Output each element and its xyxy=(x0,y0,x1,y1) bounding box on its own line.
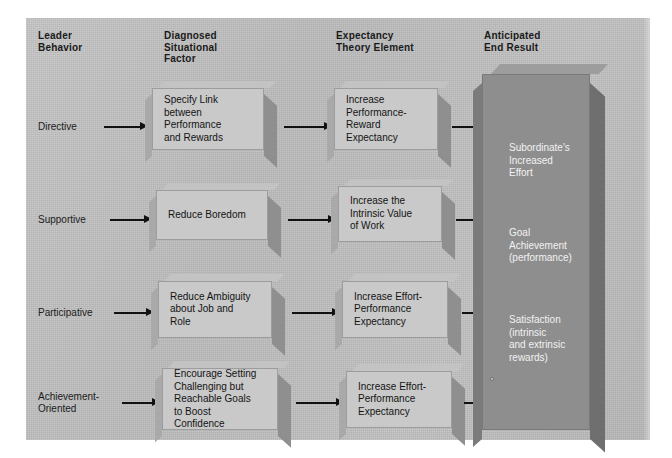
arrow-factor-to-expectancy-1 xyxy=(284,122,332,131)
arrow-factor-to-expectancy-4 xyxy=(296,398,344,407)
box-label: Reduce Boredom xyxy=(168,209,260,222)
box-reduce-ambiguity: Reduce Ambiguity about Job and Role xyxy=(158,281,272,338)
box-increase-intrinsic-value: Increase the Intrinsic Value of Work xyxy=(338,186,442,242)
end-result-item-goal-achievement: Goal Achievement (performance) xyxy=(509,227,572,265)
box-specify-link: Specify Link between Performance and Rew… xyxy=(152,88,264,150)
box-label: Increase Effort- Performance Expectancy xyxy=(354,291,440,329)
arrow-factor-to-expectancy-2 xyxy=(288,215,336,224)
column-header-leader-behavior: Leader Behavior xyxy=(38,30,82,53)
box-label: Encourage Setting Challenging but Reacha… xyxy=(174,368,270,431)
column-header-expectancy-theory-element: Expectancy Theory Element xyxy=(336,30,414,53)
arrow-directive-to-factor xyxy=(104,122,148,131)
panel-anticipated-end-result: Subordinate's Increased Effort Goal Achi… xyxy=(482,74,590,430)
box-label: Increase Effort- Performance Expectancy xyxy=(358,381,444,419)
column-header-anticipated-end-result: Anticipated End Result xyxy=(484,30,541,53)
box-increase-effort-performance-expectancy-1: Increase Effort- Performance Expectancy xyxy=(342,281,448,338)
arrow-supportive-to-factor xyxy=(110,215,152,224)
box-increase-effort-performance-expectancy-2: Increase Effort- Performance Expectancy xyxy=(346,371,452,428)
box-encourage-setting-challenging-goals: Encourage Setting Challenging but Reacha… xyxy=(162,368,278,430)
row-label-achievement-oriented: Achievement- Oriented xyxy=(38,391,99,414)
box-label: Specify Link between Performance and Rew… xyxy=(164,94,256,144)
box-increase-performance-reward-expectancy: Increase Performance- Reward Expectancy xyxy=(334,88,438,150)
end-result-item-subordinates-increased-effort: Subordinate's Increased Effort xyxy=(509,142,570,180)
arrow-participative-to-factor xyxy=(114,308,154,317)
box-label: Reduce Ambiguity about Job and Role xyxy=(170,291,264,329)
box-label: Increase Performance- Reward Expectancy xyxy=(346,94,430,144)
row-label-participative: Participative xyxy=(38,307,92,319)
end-result-item-satisfaction: Satisfaction (intrinsic and extrinsic re… xyxy=(509,314,565,364)
row-label-directive: Directive xyxy=(38,121,77,133)
column-header-diagnosed-situational-factor: Diagnosed Situational Factor xyxy=(164,30,217,65)
row-label-supportive: Supportive xyxy=(38,214,86,226)
arrow-factor-to-expectancy-3 xyxy=(292,308,340,317)
box-label: Increase the Intrinsic Value of Work xyxy=(350,195,434,233)
box-reduce-boredom: Reduce Boredom xyxy=(156,190,268,240)
bullet-dot-icon xyxy=(490,377,494,381)
diagram-canvas: Leader Behavior Diagnosed Situational Fa… xyxy=(0,0,672,458)
